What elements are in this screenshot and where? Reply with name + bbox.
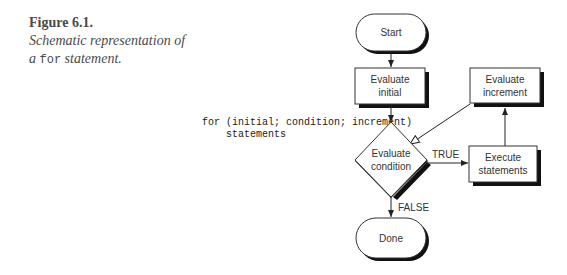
false-label: FALSE	[398, 202, 429, 213]
incr-label-1: Evaluate	[486, 74, 525, 85]
done-node: Done	[356, 218, 429, 261]
start-label: Start	[380, 27, 401, 38]
exec-label-2: statements	[479, 165, 528, 176]
cond-label-1: Evaluate	[372, 148, 411, 159]
evaluate-condition-node: Evaluate condition	[355, 122, 431, 200]
evaluate-initial-node: Evaluate initial	[355, 68, 429, 108]
true-label: TRUE	[432, 149, 460, 160]
flowchart: Start Evaluate initial Evaluate incremen…	[0, 0, 567, 275]
incr-label-2: increment	[483, 87, 527, 98]
start-node: Start	[356, 14, 429, 54]
cond-label-2: condition	[371, 161, 411, 172]
init-label-1: Evaluate	[371, 74, 410, 85]
evaluate-increment-node: Evaluate increment	[470, 68, 544, 107]
execute-statements-node: Execute statements	[469, 146, 541, 186]
init-label-2: initial	[379, 87, 402, 98]
exec-label-1: Execute	[485, 152, 522, 163]
done-label: Done	[379, 233, 403, 244]
